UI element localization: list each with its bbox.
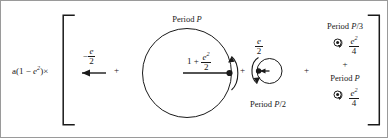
term2-rotation-arc-icon — [227, 54, 241, 92]
term2-radius-lead: 1 + — [187, 56, 201, 66]
term4-coefficient: e24 — [349, 35, 359, 56]
operator-plus-2: + — [240, 65, 245, 75]
term5-period-label: Period P — [315, 73, 375, 83]
term3-period-lead: Period — [250, 99, 274, 109]
term5-fraction: e24 — [349, 87, 359, 108]
term4-period-label: Period P/3 — [315, 21, 375, 31]
term1-fraction: e2 — [88, 47, 96, 66]
term2-period-label: Period P — [151, 14, 223, 24]
term3-denominator: 2 — [255, 47, 263, 56]
term2-period-lead: Period — [172, 14, 196, 24]
term4-circular-arrow-icon — [332, 36, 343, 49]
term3-period-label: Period P/2 — [235, 99, 301, 109]
term5-period-symbol: P — [355, 73, 360, 83]
term3-period-suffix: /2 — [279, 99, 286, 109]
term3-coefficient: e2 — [247, 37, 271, 56]
term5-period-lead: Period — [330, 73, 354, 83]
prefactor-tail: )× — [40, 66, 48, 76]
term2-radius-denominator: 2 — [201, 63, 211, 72]
term4-fraction: e24 — [349, 35, 359, 56]
term5-denominator: 4 — [349, 99, 359, 108]
term1-denominator: 2 — [88, 57, 96, 66]
term4-period-lead: Period — [327, 21, 351, 31]
term4-denominator: 4 — [349, 47, 359, 56]
term2-period-symbol: P — [197, 14, 202, 24]
term2-radius-fraction: e22 — [201, 51, 211, 72]
prefactor-lead: a(1 − — [12, 66, 33, 76]
term5-coefficient: e24 — [349, 87, 359, 108]
term1-left-arrow — [74, 67, 108, 79]
term5-circular-arrow-icon — [332, 88, 343, 101]
operator-plus-3: + — [304, 65, 309, 75]
right-bracket — [367, 14, 383, 126]
term1-coefficient: −e2 — [74, 47, 104, 66]
term4-period-suffix: /3 — [356, 21, 363, 31]
operator-plus-4: + — [315, 59, 375, 69]
term3-fraction: e2 — [255, 37, 263, 56]
term3-rotation-arc-icon — [249, 56, 262, 86]
term2-radius-label: 1 + e22 — [187, 51, 211, 72]
prefactor-label: a(1 − e2)× — [12, 65, 48, 76]
epicycle-decomposition-figure: a(1 − e2)× −e2 + Period P 1 + e22 + e2 — [0, 0, 388, 138]
operator-plus-1: + — [114, 65, 119, 75]
